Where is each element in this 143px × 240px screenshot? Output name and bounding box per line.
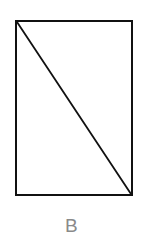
geometry-figure: [0, 0, 143, 240]
figure-label: B: [0, 215, 143, 237]
